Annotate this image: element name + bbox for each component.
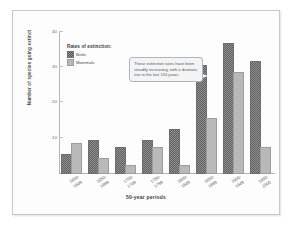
legend-label-birds: Birds: [76, 52, 86, 57]
trend-callout: These extinction rates have been steadil…: [129, 57, 203, 82]
bar-mammals-1850-1899: [206, 118, 217, 174]
y-tick-label-20: 20: [49, 99, 57, 104]
y-tick-label-40: 40: [49, 29, 57, 34]
bar-mammals-1950-2000: [260, 147, 271, 174]
bar-mammals-1600-1649: [71, 143, 82, 174]
y-tick-label-10: 10: [49, 135, 57, 140]
legend-swatch-mammals-icon: [67, 59, 74, 66]
y-tick-label-30: 30: [49, 64, 57, 69]
bar-mammals-1900-1949: [233, 72, 244, 174]
legend-title: Rates of extinction:: [67, 44, 112, 49]
chart-frame: Number of species going extinct 50-year …: [12, 10, 280, 215]
chart-plot-area: Number of species going extinct 50-year …: [13, 11, 279, 214]
y-axis-title: Number of species going extinct: [27, 8, 32, 128]
legend-item-birds: Birds: [67, 51, 112, 58]
legend-swatch-birds-icon: [67, 51, 74, 58]
legend-label-mammals: Mammals: [76, 60, 95, 65]
chart-legend: Rates of extinction: Birds Mammals: [67, 44, 112, 67]
bar-mammals-1750-1799: [152, 147, 163, 174]
legend-item-mammals: Mammals: [67, 59, 112, 66]
